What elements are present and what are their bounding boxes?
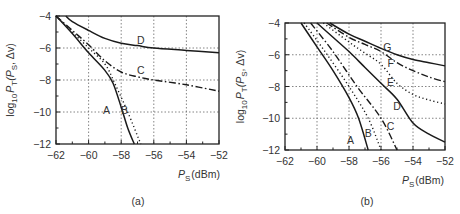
x-tick-label: −60 — [308, 155, 326, 167]
x-tick-label: −56 — [372, 155, 390, 167]
x-tick-label: −62 — [276, 155, 294, 167]
curve-label-C: C — [137, 64, 145, 76]
panel-caption: (b) — [361, 195, 374, 207]
y-tick-label: −12 — [262, 144, 280, 156]
y-tick-label: −10 — [262, 112, 280, 124]
curve-label-C: C — [387, 120, 395, 132]
x-tick-label: −58 — [112, 149, 130, 161]
y-tick-label: −8 — [39, 74, 51, 86]
x-tick-label: −60 — [80, 149, 98, 161]
y-tick-label: −6 — [268, 49, 280, 61]
x-tick-label: −52 — [210, 149, 228, 161]
panel-caption: (a) — [132, 195, 145, 207]
curve-label-A: A — [347, 134, 354, 146]
curve-label-B: B — [365, 127, 372, 139]
y-tick-label: −10 — [33, 106, 51, 118]
x-tick-label: −58 — [340, 155, 358, 167]
y-tick-label: −8 — [268, 81, 280, 93]
panel-b: −62−60−58−56−54−52−4−6−8−10−12ABCDEFGPS(… — [234, 17, 454, 207]
curve-label-A: A — [103, 104, 110, 116]
curve-label-G: G — [383, 41, 391, 53]
y-tick-label: −12 — [33, 138, 51, 150]
curve-label-B: B — [121, 104, 128, 116]
figure: −62−60−58−56−54−52−4−6−8−10−12ABCDPS(dBm… — [0, 0, 460, 214]
y-tick-label: −4 — [268, 17, 280, 29]
curve-label-F: F — [387, 57, 393, 69]
x-axis-label: PS(dBm) — [178, 168, 220, 183]
x-tick-label: −54 — [177, 149, 195, 161]
x-tick-label: −54 — [404, 155, 422, 167]
curve-label-D: D — [137, 34, 145, 46]
y-axis-label: log10PT(PS, Δv) — [4, 43, 19, 116]
x-axis-label: PS(dBm) — [402, 174, 444, 189]
x-tick-label: −62 — [47, 149, 65, 161]
x-tick-label: −56 — [145, 149, 163, 161]
curve-label-E: E — [387, 76, 394, 88]
panel-a: −62−60−58−56−54−52−4−6−8−10−12ABCDPS(dBm… — [4, 10, 228, 207]
x-tick-label: −52 — [436, 155, 454, 167]
y-tick-label: −6 — [39, 42, 51, 54]
curve-label-D: D — [393, 100, 401, 112]
y-tick-label: −4 — [39, 10, 51, 22]
y-axis-label: log10PT(PS, Δv) — [234, 50, 249, 123]
